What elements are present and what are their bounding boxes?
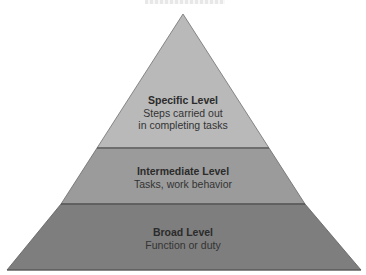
tier-label-top: Specific Level Steps carried out in comp…	[0, 94, 366, 132]
tier-desc-intermediate: Tasks, work behavior	[0, 178, 366, 191]
tier-desc-specific-line2: in completing tasks	[0, 119, 366, 132]
tier-title-specific: Specific Level	[0, 94, 366, 107]
tier-label-middle: Intermediate Level Tasks, work behavior	[0, 165, 366, 190]
tier-desc-broad: Function or duty	[0, 239, 366, 252]
tier-title-intermediate: Intermediate Level	[0, 165, 366, 178]
tier-title-broad: Broad Level	[0, 226, 366, 239]
tier-label-bottom: Broad Level Function or duty	[0, 226, 366, 251]
tier-desc-specific-line1: Steps carried out	[0, 107, 366, 120]
